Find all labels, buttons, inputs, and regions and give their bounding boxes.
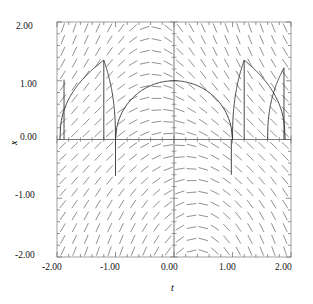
y-axis-label: x: [8, 141, 19, 145]
y-tick-label-1: 1.00: [20, 79, 37, 89]
x-tick-label-neg2: -2.00: [42, 262, 62, 272]
x-tick-label-0: 0.00: [161, 262, 178, 272]
x-tick-label-2: 2.00: [275, 262, 292, 272]
y-tick-label-neg2: -2.00: [15, 250, 35, 260]
x-tick-label-1: 1.00: [219, 262, 236, 272]
direction-field-figure: 2.00 1.00 0.00 -1.00 -2.00 -2.00 -1.00 0…: [0, 0, 313, 304]
x-axis-label: t: [171, 282, 174, 293]
y-tick-label-0: 0.00: [20, 132, 37, 142]
x-tick-label-neg1: -1.00: [100, 262, 120, 272]
y-tick-label-neg1: -1.00: [15, 190, 35, 200]
plot-canvas: [0, 0, 313, 304]
zero-axis-lines: [57, 22, 291, 257]
y-tick-label-2: 2.00: [16, 21, 33, 31]
